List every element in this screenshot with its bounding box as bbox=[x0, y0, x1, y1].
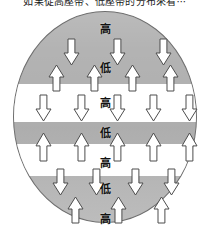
figure-caption: 如果從高壓帶、低壓帶的分布來看⋯ bbox=[0, 0, 210, 7]
label-high-polar-south: 高 bbox=[100, 214, 111, 225]
label-low-subpolar-south: 低 bbox=[100, 184, 111, 195]
globe-diagram: 高低高低高低高 bbox=[13, 11, 197, 223]
label-low-equatorial: 低 bbox=[100, 128, 111, 139]
label-high-polar-north: 高 bbox=[100, 24, 111, 35]
label-low-subpolar-north: 低 bbox=[100, 63, 111, 74]
label-high-subtropical-south: 高 bbox=[100, 158, 111, 169]
label-high-subtropical-north: 高 bbox=[100, 98, 111, 109]
